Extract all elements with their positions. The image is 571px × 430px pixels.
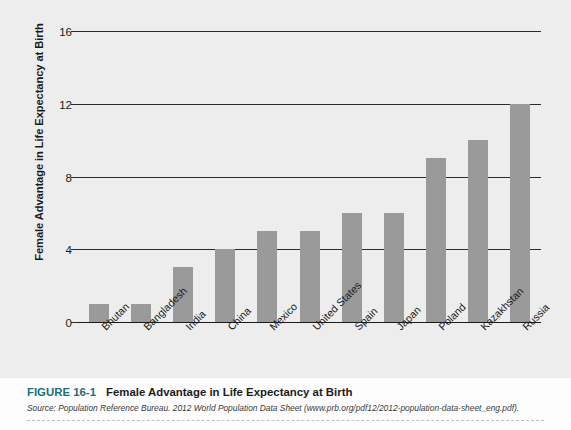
bar-united-states bbox=[300, 231, 320, 322]
bar-poland bbox=[426, 158, 446, 322]
y-tick-mark-12 bbox=[71, 104, 78, 105]
y-tick-label-8: 8 bbox=[66, 172, 72, 184]
figure-source: Source: Population Reference Bureau. 201… bbox=[27, 403, 519, 413]
y-tick-label-4: 4 bbox=[66, 244, 72, 256]
figure-caption: FIGURE 16-1Female Advantage in Life Expe… bbox=[0, 378, 571, 430]
y-tick-label-12: 12 bbox=[59, 99, 72, 111]
y-axis-title: Female Advantage in Life Expectancy at B… bbox=[33, 0, 45, 287]
y-tick-mark-8 bbox=[71, 177, 78, 178]
figure-title: Female Advantage in Life Expectancy at B… bbox=[106, 386, 352, 398]
bar-kazakhstan bbox=[468, 140, 488, 322]
x-axis-labels: BhutanBangladeshIndiaChinaMexicoUnited S… bbox=[78, 324, 548, 380]
bar-mexico bbox=[257, 231, 277, 322]
y-tick-label-0: 0 bbox=[66, 317, 72, 329]
figure-container: Female Advantage in Life Expectancy at B… bbox=[0, 0, 571, 430]
y-tick-label-16: 16 bbox=[59, 26, 72, 38]
bar-series bbox=[78, 31, 541, 322]
y-tick-mark-0 bbox=[71, 322, 78, 323]
caption-divider bbox=[27, 420, 544, 421]
plot-area: 0481216 bbox=[78, 31, 541, 322]
chart-canvas: Female Advantage in Life Expectancy at B… bbox=[0, 0, 571, 378]
caption-heading: FIGURE 16-1Female Advantage in Life Expe… bbox=[27, 386, 352, 398]
y-tick-mark-4 bbox=[71, 249, 78, 250]
y-tick-mark-16 bbox=[71, 31, 78, 32]
figure-number: FIGURE 16-1 bbox=[27, 386, 96, 398]
bar-japan bbox=[384, 213, 404, 322]
bar-china bbox=[215, 249, 235, 322]
